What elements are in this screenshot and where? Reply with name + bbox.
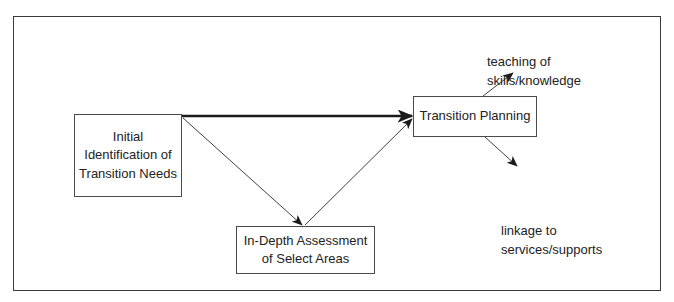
node-initial-identification: Initial Identification of Transition Nee… — [74, 114, 182, 197]
node-in-depth-assessment: In-Depth Assessment of Select Areas — [236, 226, 375, 274]
node-initial-line-1: Initial — [113, 128, 143, 147]
node-assessment-line-2: of Select Areas — [262, 250, 349, 269]
output-teaching-label: teaching of skills/knowledge — [487, 53, 581, 90]
node-planning-line-1: Transition Planning — [420, 107, 531, 126]
node-initial-line-2: Identification of — [84, 146, 171, 165]
output-linkage-label: linkage to services/supports — [501, 222, 602, 259]
edge-planning-to-linkage — [485, 137, 517, 166]
output-teaching-line-2: skills/knowledge — [487, 72, 581, 91]
node-initial-line-3: Transition Needs — [79, 165, 177, 184]
node-assessment-line-1: In-Depth Assessment — [244, 232, 368, 251]
edge-initial-to-assessment — [183, 118, 302, 225]
output-linkage-line-2: services/supports — [501, 241, 602, 260]
node-transition-planning: Transition Planning — [413, 96, 537, 137]
edge-assessment-to-planning — [305, 119, 412, 225]
output-teaching-line-1: teaching of — [487, 53, 581, 72]
output-linkage-line-1: linkage to — [501, 222, 602, 241]
